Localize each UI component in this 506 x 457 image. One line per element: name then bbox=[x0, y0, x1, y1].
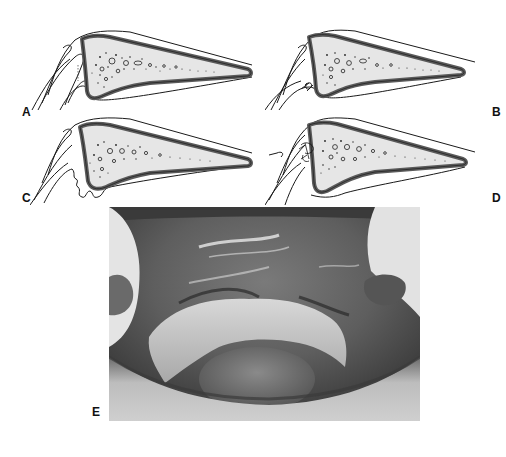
panel-label-c: C bbox=[22, 192, 31, 204]
bone-cross-section-a bbox=[30, 25, 255, 110]
bone-cross-section-b bbox=[265, 25, 490, 110]
panel-b-diagram bbox=[265, 25, 490, 110]
cortical-bone bbox=[309, 123, 466, 193]
clinical-photograph bbox=[109, 207, 420, 421]
panel-c-diagram bbox=[30, 115, 255, 205]
panel-label-e: E bbox=[92, 406, 100, 418]
panel-a-diagram bbox=[30, 25, 255, 110]
bone-cross-section-c bbox=[30, 115, 255, 205]
panel-label-b: B bbox=[492, 106, 501, 118]
bone-cross-section-d bbox=[265, 115, 490, 205]
panel-label-d: D bbox=[492, 192, 501, 204]
intraoral-photo bbox=[109, 207, 420, 421]
panel-d-diagram bbox=[265, 115, 490, 205]
cortical-bone bbox=[80, 124, 251, 189]
cortical-bone bbox=[309, 35, 464, 97]
